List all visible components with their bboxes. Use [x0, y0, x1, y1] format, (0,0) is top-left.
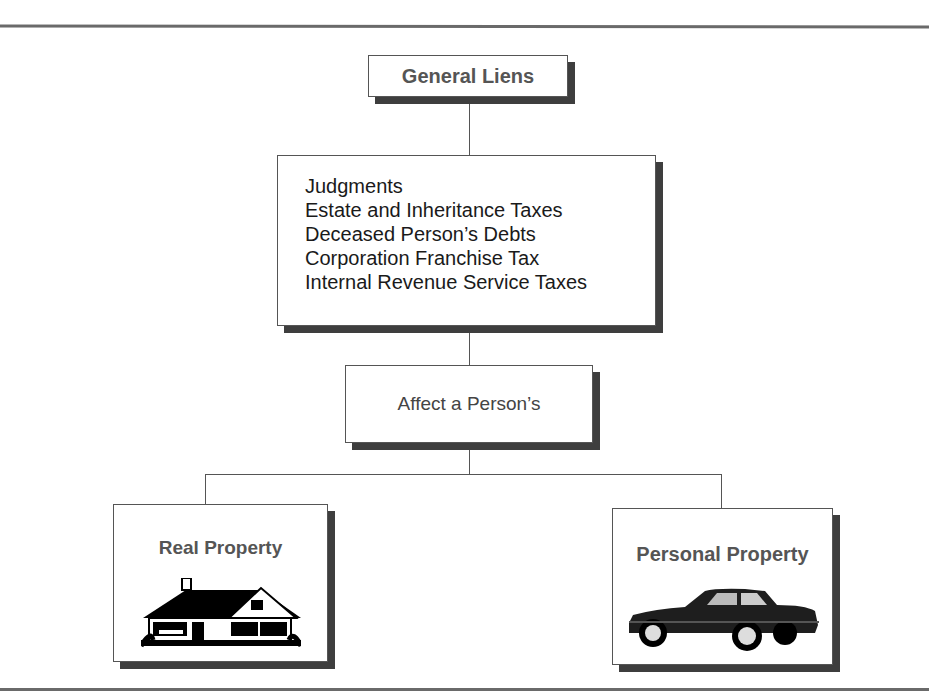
personal-property-box: Personal Property	[612, 508, 833, 665]
lien-item: Estate and Inheritance Taxes	[305, 198, 655, 222]
liens-list-box: Judgments Estate and Inheritance Taxes D…	[277, 155, 656, 326]
connector-root-to-list	[469, 97, 470, 155]
branch-right-drop	[721, 474, 722, 508]
affect-box: Affect a Person’s	[345, 365, 593, 443]
lien-item: Internal Revenue Service Taxes	[305, 270, 655, 294]
car-icon	[625, 585, 825, 655]
bottom-rule	[0, 688, 929, 691]
personal-property-title: Personal Property	[613, 543, 832, 566]
lien-item: Judgments	[305, 174, 655, 198]
real-property-title: Real Property	[114, 537, 327, 559]
connector-affect-to-branch	[469, 447, 470, 475]
top-rule	[0, 25, 929, 29]
house-icon	[141, 578, 301, 648]
affect-label: Affect a Person’s	[398, 393, 541, 415]
connector-list-to-affect	[469, 326, 470, 366]
branch-horizontal	[205, 474, 722, 475]
real-property-box: Real Property	[113, 504, 328, 662]
lien-item: Deceased Person’s Debts	[305, 222, 655, 246]
branch-left-drop	[205, 474, 206, 504]
general-liens-box: General Liens	[368, 55, 568, 97]
lien-item: Corporation Franchise Tax	[305, 246, 655, 270]
general-liens-title: General Liens	[402, 65, 534, 88]
